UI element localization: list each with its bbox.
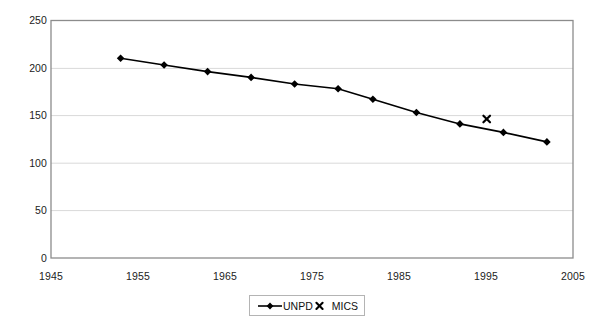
chart-legend: UNPD MICS <box>249 295 365 316</box>
legend-label-mics: MICS <box>332 300 358 312</box>
line-chart: 250 200 150 100 50 0 1945 1955 1965 1975… <box>0 0 605 328</box>
gridlines <box>51 68 573 210</box>
legend-marker-x-icon <box>313 300 326 312</box>
plot-area <box>0 0 605 328</box>
legend-item-unpd: UNPD <box>257 300 313 312</box>
series-mics <box>483 116 490 123</box>
plot-frame <box>51 21 573 259</box>
legend-label-unpd: UNPD <box>283 300 313 312</box>
legend-marker-diamond-line-icon <box>257 300 283 312</box>
legend-item-mics: MICS <box>313 300 358 312</box>
